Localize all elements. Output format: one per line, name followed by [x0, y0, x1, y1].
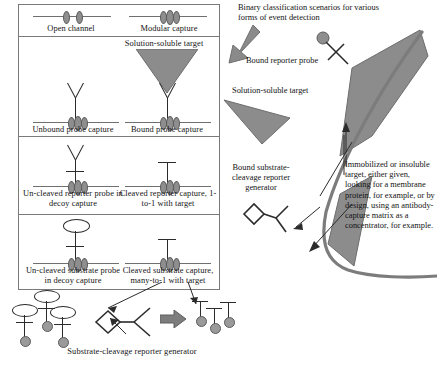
substrate-stem: [46, 301, 47, 323]
matrix-row-probe-capture: Solution-soluble target Unbound probe ca…: [19, 37, 219, 137]
cell-label-modular-capture: Modular capture: [123, 24, 215, 33]
substrate-crossbar: [54, 324, 71, 325]
matrix-row-channel: Open channel Modular capture: [19, 5, 219, 37]
antibody-arm-right: [75, 83, 84, 98]
reporter-crossbar: [66, 171, 84, 172]
label-bound-substrate-cleavage-reporter-generator: Bound substrate-cleavage reporter genera…: [223, 163, 299, 194]
substrate-loop: [63, 219, 90, 233]
matrix-row-substrate: Un-cleaved substrate probe in decoy capt…: [19, 215, 219, 290]
reporter-ball: [20, 336, 31, 347]
membrane-upper-leader-line: [316, 140, 356, 204]
cell-label-bound-probe-capture: Bound probe capture: [119, 125, 215, 134]
solution-soluble-target-shape: [222, 96, 294, 148]
bound-reporter-probe-shape: [314, 30, 362, 76]
cell-label-cleaved-reporter: Cleaved reporter capture, 1-to-1 with ta…: [118, 189, 218, 208]
substrate-loop: [34, 290, 60, 303]
row-heading-solution-soluble-target: Solution-soluble target: [109, 39, 219, 48]
channel-bead: [76, 11, 83, 24]
generator-leader-lines: [70, 282, 210, 344]
label-bound-reporter-probe: Bound reporter probe: [246, 56, 342, 66]
antibody-arm-right: [75, 145, 84, 160]
figure-canvas: Open channel Modular capture Solution-so…: [0, 0, 437, 367]
channel-line: [33, 16, 111, 17]
cell-label-uncleaved-reporter: Un-cleaved reporter probe in decoy captu…: [23, 189, 123, 208]
substrate-loop: [12, 304, 38, 317]
matrix-row-reporter: Un-cleaved reporter probe in decoy captu…: [19, 137, 219, 215]
reaction-diagram: Substrate-cleavage reporter generator: [0, 288, 240, 367]
reaction-caption: Substrate-cleavage reporter generator: [52, 347, 212, 356]
substrate-crossbar: [66, 246, 84, 247]
scenario-matrix: Open channel Modular capture Solution-so…: [18, 4, 220, 290]
cell-label-open-channel: Open channel: [25, 24, 117, 33]
reporter-ball: [42, 321, 53, 332]
detection-scene: Binary classification scenarios for vari…: [222, 0, 437, 367]
substrate-stem: [24, 315, 25, 338]
label-solution-soluble-target: Solution-soluble target: [232, 86, 336, 96]
solution-soluble-target-shape: [136, 49, 198, 93]
membrane-label-arrow: [300, 200, 356, 260]
bound-generator-shape: [242, 196, 296, 240]
channel-bead: [173, 11, 180, 24]
reporter-ball: [210, 323, 221, 334]
substrate-stem: [62, 317, 63, 339]
cell-label-unbound-probe-capture: Unbound probe capture: [25, 125, 121, 134]
channel-bead: [63, 11, 70, 24]
substrate-crossbar: [16, 322, 33, 323]
